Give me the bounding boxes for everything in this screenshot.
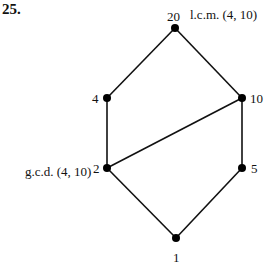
node-label-1: 1: [173, 251, 180, 264]
node-label-2: 2: [93, 162, 100, 175]
edge-5-1: [176, 168, 242, 238]
node-label-4: 4: [92, 92, 99, 105]
lcm-annotation: l.c.m. (4, 10): [190, 8, 257, 21]
node-10: [238, 94, 246, 102]
edges: [107, 28, 242, 238]
node-5: [238, 164, 246, 172]
node-4: [103, 94, 111, 102]
hasse-diagram: [0, 0, 278, 272]
edge-20-10: [175, 28, 242, 98]
node-20: [171, 24, 179, 32]
gcd-annotation: g.c.d. (4, 10): [25, 165, 91, 178]
node-1: [172, 234, 180, 242]
edge-20-4: [107, 28, 175, 98]
node-label-10: 10: [250, 92, 263, 105]
edge-2-10: [107, 98, 242, 168]
node-2: [103, 164, 111, 172]
edge-2-1: [107, 168, 176, 238]
node-label-20: 20: [167, 10, 180, 23]
node-label-5: 5: [251, 162, 258, 175]
